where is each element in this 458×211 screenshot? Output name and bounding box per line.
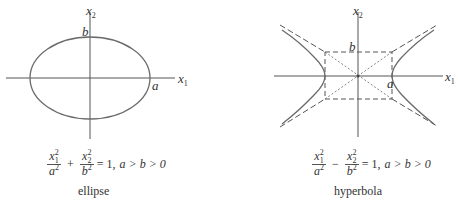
hyperbola-term2: x22 b2 xyxy=(345,150,359,179)
asymptote-ul xyxy=(280,25,325,52)
hyperbola-center xyxy=(357,75,360,78)
hyperbola-operator: − xyxy=(332,157,339,172)
ellipse-diagram xyxy=(6,12,175,139)
hyperbola-x2-label: x2 xyxy=(353,4,363,17)
hyperbola-right-branch xyxy=(392,30,434,124)
hyperbola-diagram xyxy=(274,12,443,137)
hyperbola-x1-label: x1 xyxy=(445,70,455,83)
ellipse-equation: x12 a2 + x22 b2 = 1, a > b > 0 xyxy=(44,150,166,179)
hyperbola-b-label: b xyxy=(349,40,356,53)
hyperbola-a-label: a xyxy=(387,77,394,90)
hyperbola-term1: x12 a2 xyxy=(312,150,326,179)
ellipse-x2-label: x2 xyxy=(86,4,96,17)
asymptote-ll xyxy=(280,99,325,127)
ellipse-rhs: = 1, xyxy=(97,157,116,172)
hyperbola-rhs: = 1, xyxy=(362,157,381,172)
ellipse-x1-label: x1 xyxy=(178,72,188,85)
hyperbola-condition: a > b > 0 xyxy=(385,157,431,172)
hyperbola-left-branch xyxy=(282,30,325,124)
hyperbola-equation: x12 a2 − x22 b2 = 1, a > b > 0 xyxy=(309,150,431,179)
asymptote-lr xyxy=(392,99,437,126)
ellipse-b-label: b xyxy=(82,25,89,38)
ellipse-operator: + xyxy=(67,157,74,172)
asymptote-ur xyxy=(392,25,437,52)
ellipse-term1: x12 a2 xyxy=(47,150,61,179)
ellipse-caption: ellipse xyxy=(78,184,109,199)
ellipse-condition: a > b > 0 xyxy=(120,157,166,172)
ellipse-term2: x22 b2 xyxy=(80,150,94,179)
ellipse-a-label: a xyxy=(152,79,159,92)
figure-canvas xyxy=(0,0,458,211)
hyperbola-caption: hyperbola xyxy=(334,184,382,199)
